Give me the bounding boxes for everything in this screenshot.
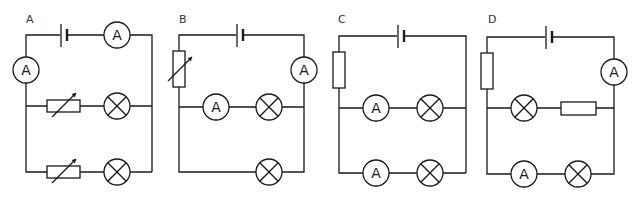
- variable-resistor-icon: [47, 159, 80, 183]
- ammeter-icon: A: [601, 59, 627, 85]
- circuit-label-b: B: [179, 13, 187, 26]
- circuit-d: D A A: [481, 13, 627, 187]
- lamp-icon: [104, 159, 130, 185]
- svg-text:A: A: [21, 62, 31, 78]
- ammeter-icon: A: [363, 95, 389, 121]
- svg-text:A: A: [519, 166, 529, 182]
- circuit-label-a: A: [26, 13, 34, 26]
- svg-text:A: A: [112, 27, 122, 43]
- resistor-icon: [333, 52, 345, 88]
- svg-text:A: A: [299, 62, 309, 78]
- circuit-b: B A A: [168, 13, 317, 185]
- svg-text:A: A: [371, 100, 381, 116]
- ammeter-icon: A: [203, 94, 229, 120]
- cell-icon: [61, 24, 67, 47]
- ammeter-icon: A: [13, 57, 39, 83]
- cell-icon: [398, 25, 404, 48]
- circuit-label-d: D: [488, 13, 496, 26]
- lamp-icon: [417, 160, 443, 186]
- svg-text:A: A: [211, 99, 221, 115]
- lamp-icon: [511, 95, 537, 121]
- circuit-label-c: C: [338, 13, 346, 26]
- circuit-c: C A A: [333, 13, 466, 186]
- lamp-icon: [104, 93, 130, 119]
- svg-text:A: A: [371, 165, 381, 181]
- lamp-icon: [256, 94, 282, 120]
- ammeter-icon: A: [511, 161, 537, 187]
- circuit-a: A A A: [13, 13, 152, 185]
- cell-icon: [546, 26, 552, 49]
- ammeter-icon: A: [291, 57, 317, 83]
- lamp-icon: [256, 159, 282, 185]
- lamp-icon: [565, 161, 591, 187]
- variable-resistor-icon: [168, 51, 192, 87]
- circuit-diagrams: A A A: [0, 0, 636, 198]
- ammeter-icon: A: [104, 22, 130, 48]
- ammeter-icon: A: [363, 160, 389, 186]
- resistor-icon: [481, 53, 493, 89]
- variable-resistor-icon: [47, 93, 80, 117]
- svg-text:A: A: [609, 64, 619, 80]
- lamp-icon: [417, 95, 443, 121]
- resistor-icon: [561, 102, 596, 115]
- cell-icon: [237, 24, 243, 47]
